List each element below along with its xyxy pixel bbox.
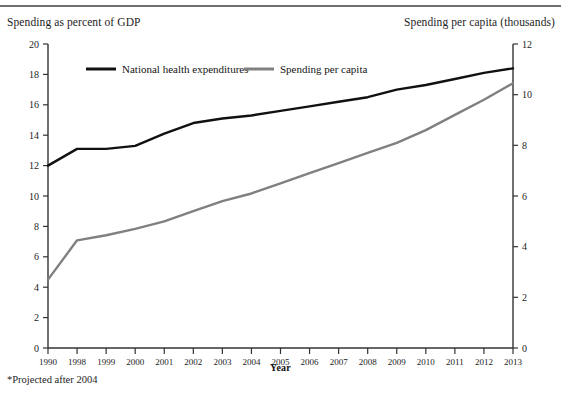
right-axis-tick-label: 10 (522, 89, 532, 100)
left-axis-tick-label: 12 (29, 160, 39, 171)
legend-label: National health expenditures (122, 63, 248, 75)
right-axis-tick-label: 4 (522, 241, 527, 252)
left-axis-tick-label: 10 (29, 191, 39, 202)
legend-label: Spending per capita (280, 63, 367, 75)
line-chart-plot: 0246810121416182002468101219901998199920… (0, 0, 561, 397)
chart-footnote: *Projected after 2004 (7, 374, 97, 385)
right-axis-tick-label: 6 (522, 191, 527, 202)
right-axis-tick-label: 12 (522, 39, 532, 50)
series-line-spending-per-capita (48, 83, 513, 279)
right-axis-tick-label: 2 (522, 292, 527, 303)
left-axis-tick-label: 2 (34, 312, 39, 323)
x-axis-title: Year (0, 362, 561, 373)
series-line-national-health-expenditures (48, 68, 513, 165)
left-axis-tick-label: 14 (29, 130, 39, 141)
left-axis-tick-label: 0 (34, 343, 39, 354)
left-axis-tick-label: 20 (29, 39, 39, 50)
left-axis-tick-label: 18 (29, 69, 39, 80)
chart-figure: Spending as percent of GDP Spending per … (0, 0, 561, 397)
left-axis-tick-label: 8 (34, 221, 39, 232)
left-axis-tick-label: 6 (34, 251, 39, 262)
left-axis-tick-label: 4 (34, 282, 39, 293)
right-axis-tick-label: 8 (522, 140, 527, 151)
left-axis-tick-label: 16 (29, 99, 39, 110)
right-axis-tick-label: 0 (522, 343, 527, 354)
